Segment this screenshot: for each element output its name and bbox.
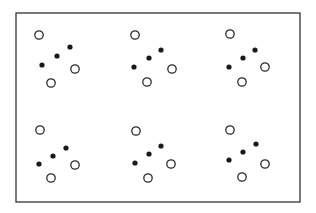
filled-dot-icon (240, 149, 245, 154)
cluster-top-middle (131, 31, 176, 86)
filled-dot-icon (226, 64, 231, 69)
filled-dot-icon (54, 53, 59, 58)
open-circle-icon (261, 63, 269, 71)
filled-dot-icon (158, 47, 163, 52)
open-circle-icon (238, 78, 246, 86)
filled-dot-icon (36, 161, 41, 166)
cluster-bottom-left (36, 126, 79, 182)
open-circle-icon (226, 126, 234, 134)
diagram-frame (16, 13, 300, 202)
filled-dot-icon (131, 64, 136, 69)
cluster-bottom-right (226, 126, 269, 181)
open-circle-icon (71, 161, 79, 169)
open-circle-icon (144, 174, 152, 182)
open-circle-icon (71, 65, 79, 73)
open-circle-icon (131, 31, 139, 39)
open-circle-icon (226, 30, 234, 38)
open-circle-icon (47, 79, 55, 87)
filled-dot-icon (132, 160, 137, 165)
filled-dot-icon (50, 153, 55, 158)
cluster-top-left (35, 31, 79, 87)
open-circle-icon (36, 126, 44, 134)
open-circle-icon (238, 173, 246, 181)
filled-dot-icon (253, 141, 258, 146)
dot-clusters (35, 30, 269, 182)
filled-dot-icon (252, 47, 257, 52)
open-circle-icon (261, 160, 269, 168)
open-circle-icon (167, 160, 175, 168)
filled-dot-icon (158, 143, 163, 148)
open-circle-icon (47, 174, 55, 182)
dot-pattern-diagram (0, 0, 316, 213)
filled-dot-icon (146, 151, 151, 156)
filled-dot-icon (240, 55, 245, 60)
filled-dot-icon (226, 157, 231, 162)
cluster-bottom-middle (132, 127, 175, 182)
cluster-top-right (226, 30, 269, 86)
filled-dot-icon (39, 62, 44, 67)
open-circle-icon (168, 65, 176, 73)
open-circle-icon (35, 31, 43, 39)
open-circle-icon (132, 127, 140, 135)
filled-dot-icon (146, 55, 151, 60)
open-circle-icon (143, 78, 151, 86)
filled-dot-icon (63, 145, 68, 150)
filled-dot-icon (67, 44, 72, 49)
